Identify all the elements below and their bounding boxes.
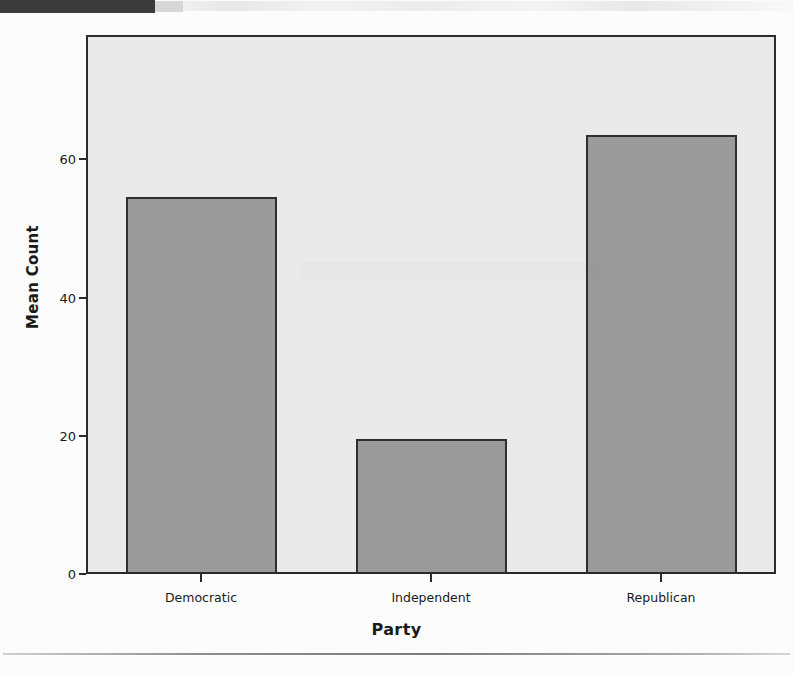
bar <box>586 135 737 572</box>
y-tick-mark <box>79 158 86 160</box>
x-tick-mark <box>430 574 432 582</box>
scanned-page: Mean Count 0204060 DemocraticIndependent… <box>0 0 793 675</box>
x-tick-mark <box>200 574 202 582</box>
x-axis-title: Party <box>0 620 793 639</box>
x-tick-mark <box>660 574 662 582</box>
page-footer-rule <box>3 653 790 655</box>
y-tick-label: 60 <box>48 152 76 167</box>
x-tick-label: Independent <box>391 590 470 605</box>
y-tick-label: 0 <box>48 567 76 582</box>
y-tick-label: 40 <box>48 290 76 305</box>
y-tick-mark <box>79 573 86 575</box>
x-tick-label: Republican <box>626 590 695 605</box>
y-tick-mark <box>79 297 86 299</box>
bar <box>356 439 507 572</box>
x-tick-label: Democratic <box>165 590 237 605</box>
bar-chart-figure: Mean Count 0204060 DemocraticIndependent… <box>0 0 793 655</box>
y-tick-label: 20 <box>48 428 76 443</box>
y-tick-mark <box>79 435 86 437</box>
plot-area <box>86 35 776 574</box>
bars-layer <box>88 37 774 572</box>
y-axis-title: Mean Count <box>24 187 42 367</box>
bar <box>126 197 277 572</box>
